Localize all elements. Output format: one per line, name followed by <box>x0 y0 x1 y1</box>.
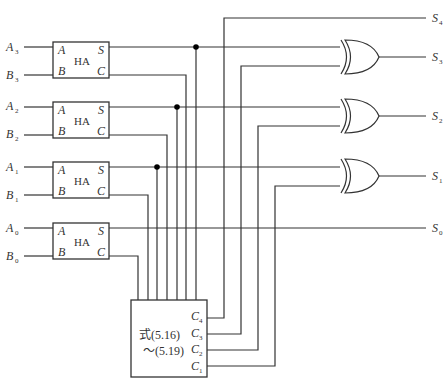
half-adder-2: A B S C HA <box>53 102 109 138</box>
svg-text:S: S <box>98 103 104 117</box>
svg-text:B: B <box>58 124 66 138</box>
input-a1-label: A <box>5 160 14 174</box>
svg-text:B: B <box>58 245 66 259</box>
carry-output-wires <box>207 18 426 366</box>
input-b0-sub: 0 <box>15 257 19 265</box>
input-b1-label: B <box>6 188 14 202</box>
junction-dot <box>193 44 199 50</box>
svg-text:4: 4 <box>439 19 443 27</box>
input-a1-sub: 1 <box>15 168 19 176</box>
junction-dot <box>154 164 160 170</box>
input-b0-label: B <box>6 249 14 263</box>
svg-text:A: A <box>5 40 14 54</box>
input-b2-sub: 2 <box>15 135 19 143</box>
half-adder-0: A B S C HA <box>53 223 109 259</box>
input-a3-label: A <box>5 40 14 54</box>
svg-text:C: C <box>97 64 106 78</box>
half-adder-1: A B S C HA <box>53 162 109 198</box>
xor-gate-2 <box>341 99 426 133</box>
input-b3-label: B <box>6 68 14 82</box>
svg-text:B: B <box>58 64 66 78</box>
output-s3-label: S <box>432 50 438 64</box>
svg-text:HA: HA <box>74 55 90 67</box>
svg-text:C: C <box>97 184 106 198</box>
output-s4-label: S <box>432 11 438 25</box>
input-b1-sub: 1 <box>15 196 19 204</box>
output-s0-label: S <box>432 221 438 235</box>
svg-text:B: B <box>58 184 66 198</box>
output-labels: S 4 S 3 S 2 S 1 S 0 <box>432 11 443 237</box>
svg-text:1: 1 <box>199 367 203 375</box>
svg-text:4: 4 <box>199 317 203 325</box>
xor-gate-1 <box>341 159 426 193</box>
svg-text:3: 3 <box>439 58 443 66</box>
propagate-wires <box>148 44 199 300</box>
carry-lookahead-block: 式(5.16) ～(5.19) C 4 C 3 C 2 C 1 <box>131 300 207 377</box>
svg-text:C: C <box>97 245 106 259</box>
input-labels: A 3 B 3 A 2 B 2 A 1 B 1 A 0 B 0 <box>5 40 19 265</box>
svg-text:A: A <box>57 103 66 117</box>
svg-text:HA: HA <box>74 175 90 187</box>
output-s1-label: S <box>432 169 438 183</box>
input-a0-label: A <box>5 221 14 235</box>
input-a3-sub: 3 <box>15 48 19 56</box>
svg-text:2: 2 <box>199 350 203 358</box>
svg-text:A: A <box>57 224 66 238</box>
carry-block-equation-line2: ～(5.19) <box>143 344 184 358</box>
svg-text:A: A <box>57 43 66 57</box>
half-adder-3: A B S C HA <box>53 42 109 78</box>
svg-text:HA: HA <box>74 115 90 127</box>
svg-text:A: A <box>57 163 66 177</box>
svg-text:3: 3 <box>199 334 203 342</box>
input-b3-sub: 3 <box>15 76 19 84</box>
output-s2-label: S <box>432 109 438 123</box>
svg-text:S: S <box>98 43 104 57</box>
xor-gate-3 <box>341 40 426 74</box>
svg-text:0: 0 <box>439 229 443 237</box>
svg-text:S: S <box>98 163 104 177</box>
input-wires <box>24 47 53 256</box>
svg-text:1: 1 <box>439 177 443 185</box>
junction-dot <box>174 104 180 110</box>
input-a0-sub: 0 <box>15 229 19 237</box>
input-b2-label: B <box>6 127 14 141</box>
svg-text:2: 2 <box>439 117 443 125</box>
svg-text:HA: HA <box>74 236 90 248</box>
svg-text:C: C <box>97 124 106 138</box>
svg-text:S: S <box>98 224 104 238</box>
adder-circuit-diagram: A 3 B 3 A 2 B 2 A 1 B 1 A 0 B 0 A B S C … <box>0 0 446 388</box>
carry-block-equation-line1: 式(5.16) <box>139 328 180 342</box>
input-a2-sub: 2 <box>15 107 19 115</box>
input-a2-label: A <box>5 99 14 113</box>
